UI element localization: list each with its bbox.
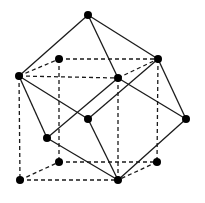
vertices bbox=[15, 11, 190, 184]
vertex-bbr bbox=[153, 158, 161, 166]
polyhedron-diagram bbox=[0, 0, 205, 203]
vertex-bbl bbox=[55, 158, 63, 166]
solid-edge-btr-center bbox=[88, 59, 158, 119]
dashed-edge-ftl-ftr bbox=[19, 76, 118, 78]
solid-edge-top-ftl bbox=[19, 15, 88, 76]
vertex-top bbox=[84, 11, 92, 19]
dashed-edge-btr-bbr bbox=[157, 59, 158, 162]
dashed-edge-bbr-fbr bbox=[118, 162, 157, 180]
dashed-edge-ftl-fbl bbox=[19, 76, 20, 180]
dashed-edge-ftr-btr bbox=[118, 59, 158, 78]
vertex-fbl bbox=[16, 176, 24, 184]
dashed-edge-fbl-bbl bbox=[20, 162, 59, 180]
solid-edge-ftr-leftmid bbox=[47, 78, 118, 138]
vertex-center bbox=[84, 115, 92, 123]
vertex-btl bbox=[55, 55, 63, 63]
vertex-ftl bbox=[15, 72, 23, 80]
vertex-fbr bbox=[114, 176, 122, 184]
dashed-edge-ftl-btl bbox=[19, 59, 59, 76]
vertex-btr bbox=[154, 55, 162, 63]
solid-edge-right-fbr bbox=[118, 119, 186, 180]
vertex-right bbox=[182, 115, 190, 123]
vertex-ftr bbox=[114, 74, 122, 82]
rhombic-face-edges bbox=[19, 15, 186, 180]
vertex-leftmid bbox=[43, 134, 51, 142]
